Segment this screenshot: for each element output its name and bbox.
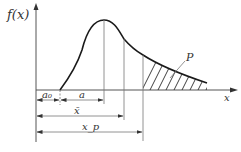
- dimension-xbar: x̄: [37, 105, 123, 116]
- y-axis-label: f(x): [6, 7, 29, 22]
- density-diagram: f(x) x P a₀ a x̄: [0, 0, 241, 152]
- x-axis: x: [36, 88, 238, 104]
- p-label: P: [185, 51, 194, 64]
- dimension-a: a: [61, 89, 103, 100]
- a0-label: a₀: [42, 89, 52, 100]
- dimension-a0: a₀: [37, 89, 59, 100]
- x-axis-label: x: [224, 92, 230, 103]
- y-axis-arrow-icon: [34, 3, 39, 10]
- xp-label: x_p: [82, 121, 100, 133]
- dimension-xp: x_p: [37, 121, 142, 133]
- y-axis: f(x): [6, 3, 39, 142]
- a-label: a: [79, 89, 85, 100]
- xbar-label: x̄: [74, 105, 80, 116]
- x-axis-arrow-icon: [230, 88, 238, 93]
- density-curve: [60, 20, 207, 90]
